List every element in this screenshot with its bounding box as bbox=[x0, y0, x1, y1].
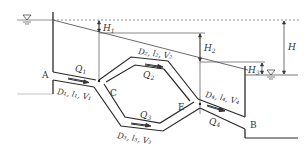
flow-q3-label: Q3 bbox=[140, 110, 151, 121]
node-c-label: C bbox=[110, 88, 117, 98]
flow-q1-label: Q1 bbox=[75, 64, 86, 75]
junction-c-dot bbox=[98, 80, 100, 82]
pipe-network-diagram: A B C E Q1 Q2 Q3 Q4 D₁, l₁, V₁ D₂, l₂, V… bbox=[0, 0, 306, 160]
hydraulic-grade-line bbox=[53, 20, 248, 70]
node-b-label: B bbox=[250, 120, 257, 130]
left-water-level-icon bbox=[23, 15, 31, 24]
head-h3-label: H3 bbox=[247, 65, 260, 76]
h3-dimension-arrow bbox=[261, 63, 264, 74]
h1-dimension-arrow bbox=[98, 21, 101, 32]
flow-q4-label: Q4 bbox=[209, 117, 220, 128]
h-total-dimension-arrow bbox=[283, 21, 286, 74]
h2-dimension-arrow bbox=[199, 34, 202, 61]
head-h1-label: H1 bbox=[102, 23, 115, 34]
node-a-label: A bbox=[41, 70, 49, 80]
head-h-total-label: H bbox=[287, 42, 296, 52]
junction-e-dot bbox=[199, 103, 201, 105]
pipe-1-properties: D₁, l₁, V₁ bbox=[56, 87, 93, 102]
right-water-level-icon bbox=[267, 70, 275, 79]
node-e-label: E bbox=[178, 102, 185, 112]
head-h2-label: H2 bbox=[203, 43, 216, 54]
pipe-3-properties: D₃, l₃, V₃ bbox=[116, 131, 153, 146]
flow-q2-label: Q2 bbox=[143, 70, 154, 81]
flow-arrow-q3 bbox=[131, 123, 151, 127]
